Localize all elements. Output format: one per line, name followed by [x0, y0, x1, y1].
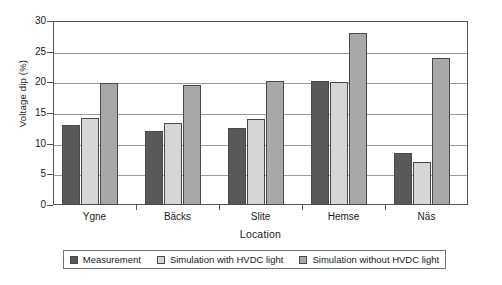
bar-bäcks-series-2 [164, 123, 182, 205]
bar-hemse-series-2 [330, 82, 348, 205]
bar-slite-series-1 [228, 128, 246, 205]
bar-bäcks-series-3 [183, 85, 201, 205]
bar-näs-series-2 [413, 162, 431, 205]
y-tick-label-5: 5 [6, 169, 46, 179]
x-tick-label-hemse: Hemse [299, 211, 389, 222]
bar-ygne-series-2 [81, 118, 99, 205]
bar-group-bäcks [137, 21, 220, 205]
x-tick-label-slite: Slite [216, 211, 306, 222]
x-tick-label-ygne: Ygne [50, 211, 140, 222]
bar-group-näs [386, 21, 469, 205]
y-tick-label-0: 0 [6, 200, 46, 210]
bar-group-hemse [303, 21, 386, 205]
legend-swatch-1 [70, 256, 78, 264]
bar-group-ygne [54, 21, 137, 205]
x-tick-label-bäcks: Bäcks [133, 211, 223, 222]
legend-item-1: Measurement [70, 254, 141, 265]
legend-item-3: Simulation without HVDC light [299, 254, 439, 265]
legend-label-3: Simulation without HVDC light [312, 254, 439, 265]
y-tick-label-20: 20 [6, 77, 46, 87]
chart-legend: MeasurementSimulation with HVDC lightSim… [63, 250, 446, 269]
bar-näs-series-3 [432, 58, 450, 205]
bar-näs-series-1 [394, 153, 412, 205]
bar-slite-series-2 [247, 119, 265, 205]
x-tick-label-näs: Näs [382, 211, 472, 222]
y-tick-label-10: 10 [6, 139, 46, 149]
legend-label-1: Measurement [83, 254, 141, 265]
x-tick-mark-3 [302, 205, 303, 210]
bar-slite-series-3 [266, 81, 284, 206]
x-tick-mark-1 [136, 205, 137, 210]
bar-groups [54, 21, 467, 205]
y-tick-mark-0 [47, 205, 53, 206]
legend-swatch-3 [299, 256, 307, 264]
bar-hemse-series-3 [349, 33, 367, 205]
chart-figure: Voltage dip (%) 051015202530 YgneBäcksSl… [0, 0, 502, 285]
legend-swatch-2 [157, 256, 165, 264]
y-tick-label-25: 25 [6, 47, 46, 57]
bar-ygne-series-3 [100, 83, 118, 205]
x-tick-mark-4 [385, 205, 386, 210]
bar-group-slite [220, 21, 303, 205]
bar-hemse-series-1 [311, 81, 329, 205]
y-tick-label-15: 15 [6, 108, 46, 118]
y-tick-label-30: 30 [6, 16, 46, 26]
x-axis-title: Location [53, 228, 468, 240]
legend-item-2: Simulation with HVDC light [157, 254, 284, 265]
x-tick-mark-2 [219, 205, 220, 210]
bar-bäcks-series-1 [145, 131, 163, 205]
legend-label-2: Simulation with HVDC light [170, 254, 284, 265]
bar-ygne-series-1 [62, 125, 80, 205]
